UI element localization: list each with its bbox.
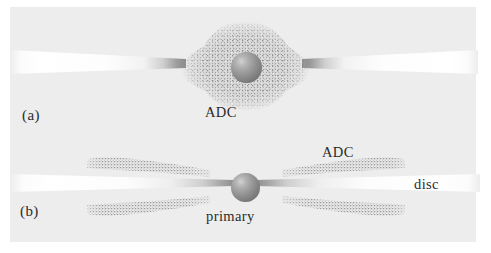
disc-label: disc: [414, 176, 439, 193]
panel-b: (b) ADC disc primary: [0, 0, 491, 253]
primary-label: primary: [206, 208, 255, 225]
adc-label-b: ADC: [322, 144, 354, 161]
primary-star-sphere-b: [231, 173, 260, 202]
figure-root: (a) ADC: [0, 0, 491, 253]
adc-slab-lower-left-b: [84, 193, 214, 219]
adc-slab-lower-right-b: [278, 193, 408, 219]
panel-b-label: (b): [20, 203, 39, 220]
adc-slab-upper-left-b: [84, 155, 214, 181]
